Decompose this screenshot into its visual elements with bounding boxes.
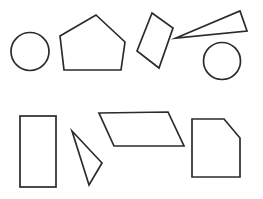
canvas-background xyxy=(0,0,263,199)
shapes-diagram-canvas xyxy=(0,0,263,199)
